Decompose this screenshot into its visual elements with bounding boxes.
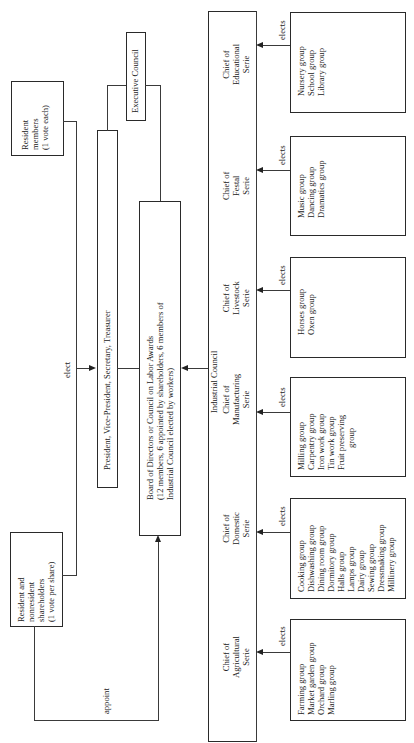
industrial-board-arrowhead-icon [181,365,188,371]
exec-top-connector [107,85,127,86]
elects-label-domestic: elects [277,506,287,526]
groups-educational: Nursery group School group Library group [296,46,326,96]
groups-livestock: Horses group Oxen group [296,289,316,335]
elects-label-festal: elects [277,145,287,165]
elects-arrowhead-livestock-icon [256,287,263,293]
chief-festal-label: Chief of Festal Serie [221,172,251,200]
resident-members-label: Resident members (1 vote each) [20,105,50,150]
industrial-board-connector [187,368,209,369]
chief-livestock-label: Chief of Livestock Serie [221,281,251,315]
elect-arrowhead-icon [89,365,96,371]
appoint-label: appoint [101,688,111,714]
elects-arrowhead-domestic-icon [256,529,263,535]
exec-board-connector-h [145,85,161,86]
appoint-line-across [34,720,159,721]
exec-board-connector-v [160,85,161,202]
shareholders-label: Resident and nonresident shareholders (1… [16,562,56,622]
officers-exec-connector [107,85,108,131]
series-spine [256,11,257,742]
connector-elect-vertical [76,121,77,532]
groups-festal: Music group Dancing group Dramatics grou… [296,160,326,218]
groups-agricultural: Farming group Market garden group Orchar… [296,642,336,715]
elects-label-manufacturing: elects [277,387,287,407]
elects-arrowhead-educational-icon [256,42,263,48]
elects-line-educational [262,45,290,46]
industrial-council-label: Industrial Council [209,351,219,413]
chief-domestic-label: Chief of Domestic Serie [221,512,251,545]
elects-line-festal [262,170,290,171]
elects-arrowhead-agricultural-icon [256,649,263,655]
connector-resident-members [63,121,76,122]
elect-label: elect [62,362,72,378]
appoint-line-down [34,626,35,721]
appoint-line-up [158,542,159,721]
elects-label-livestock: elects [277,265,287,285]
groups-manufacturing: Milling group Carpentry group Iron work … [296,413,356,470]
elects-label-educational: elects [277,20,287,40]
elects-arrowhead-festal-icon [256,167,263,173]
chief-educational-label: Chief of Educational Serie [221,44,251,85]
groups-domestic: Cooking group Dishwashing group Dining r… [296,524,396,592]
elects-line-livestock [262,290,290,291]
elects-label-agricultural: elects [277,626,287,646]
officers-board-connector [117,368,139,369]
chief-agricultural-label: Chief of Agricultural Serie [221,636,251,678]
connector-shareholders-elect-v [76,532,77,576]
appoint-arrowhead-icon [155,535,161,542]
elects-line-manufacturing [262,412,290,413]
board-label: Board of Directors or Council on Labor A… [145,302,175,500]
elects-line-agricultural [262,652,290,653]
elects-line-domestic [262,532,290,533]
chief-manufacturing-label: Chief of Manufacturing Serie [221,374,251,425]
executive-council-label: Executive Council [130,49,140,113]
elects-arrowhead-manufacturing-icon [256,409,263,415]
officers-label: President, Vice-President, Secretary, Tr… [102,310,112,470]
connector-shareholders-elect [62,575,76,576]
